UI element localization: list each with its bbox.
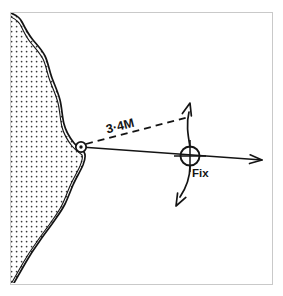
landmark-center-dot [79, 145, 82, 148]
fix-circle [181, 147, 200, 166]
nautical-fix-diagram: 3·4M Fix [0, 0, 283, 296]
fix-label: Fix [192, 167, 209, 179]
diagram-canvas: 3·4M Fix [0, 0, 283, 296]
landmark-point [76, 142, 86, 152]
